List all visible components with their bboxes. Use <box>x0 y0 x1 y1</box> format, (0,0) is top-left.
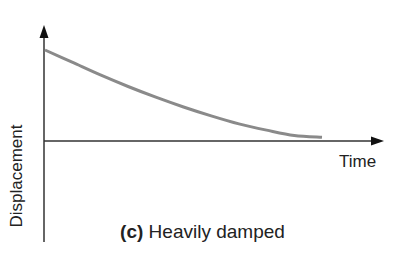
x-axis-arrow-icon <box>371 137 384 146</box>
x-axis-label: Time <box>339 152 376 172</box>
y-axis-label: Displacement <box>7 121 27 231</box>
figure-caption: (c) Heavily damped <box>0 221 395 243</box>
caption-text: Heavily damped <box>143 221 285 242</box>
caption-prefix: (c) <box>120 221 143 242</box>
y-axis-arrow-icon <box>40 25 49 38</box>
damped-curve <box>45 50 322 137</box>
